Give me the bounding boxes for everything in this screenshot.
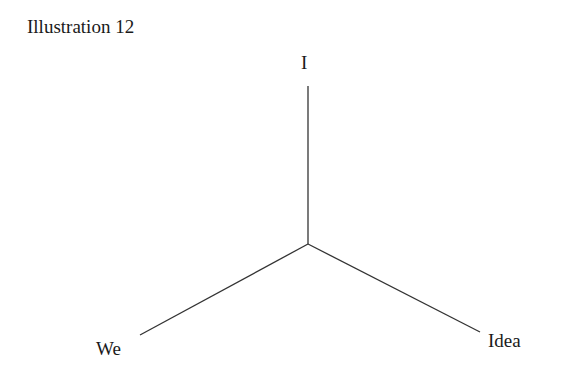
node-label-idea: Idea [488,330,521,352]
node-label-we: We [96,338,121,360]
i-we-idea-diagram [0,0,566,366]
line-to-idea [308,244,480,332]
line-to-we [140,244,308,335]
node-label-i: I [301,52,307,74]
